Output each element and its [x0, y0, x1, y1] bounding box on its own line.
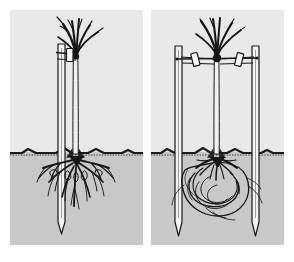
- panel-left-artwork: [10, 10, 143, 245]
- stake-single: [58, 44, 65, 234]
- trunk-body: [73, 52, 78, 154]
- panel-right-artwork: [151, 10, 284, 245]
- trunk-body: [214, 52, 219, 154]
- stake-left: [175, 46, 182, 236]
- crossbar-end-left: [175, 57, 178, 60]
- illustration-figure: [0, 0, 294, 262]
- panel-right-double-stake: [151, 10, 284, 245]
- tie-central-knot: [213, 54, 221, 62]
- panel-left-single-stake: [10, 10, 143, 245]
- figure-caption: [0, 248, 294, 262]
- stake-right: [252, 46, 259, 236]
- tie-knot: [73, 54, 79, 60]
- crossbar-end-right: [255, 56, 258, 59]
- tie-spacer-block: [67, 49, 74, 62]
